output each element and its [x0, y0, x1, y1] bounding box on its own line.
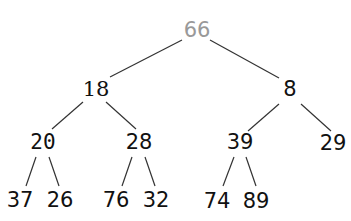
tree-edge-66-8 [210, 40, 279, 78]
tree-edge-8-29 [301, 104, 331, 131]
tree-node: 39 [227, 130, 254, 154]
tree-node: 74 [204, 189, 231, 213]
tree-node: 76 [103, 188, 130, 212]
tree-edge-39-74 [223, 157, 234, 186]
tree-node: 37 [7, 188, 34, 212]
tree-edge-39-89 [246, 157, 256, 186]
tree-node: 8 [283, 77, 296, 101]
tree-edge-66-18 [110, 40, 182, 77]
tree-edge-8-39 [248, 104, 279, 131]
tree-node-root: 66 [184, 18, 211, 42]
binary-tree-diagram: 6618820283929372676327489 [0, 0, 351, 221]
tree-edge-20-37 [26, 157, 36, 186]
tree-node: 20 [30, 130, 55, 154]
tree-edges [26, 40, 331, 186]
tree-node: 26 [47, 188, 74, 212]
tree-node: 28 [126, 130, 153, 154]
tree-edge-18-28 [106, 102, 136, 129]
tree-node: 89 [243, 189, 270, 213]
tree-edge-18-20 [52, 102, 83, 129]
tree-node: 18 [83, 77, 110, 101]
tree-node: 32 [143, 188, 170, 212]
tree-node: 29 [320, 131, 347, 155]
tree-edge-28-32 [145, 157, 155, 186]
tree-edge-20-26 [49, 157, 59, 186]
tree-edge-28-76 [122, 157, 132, 186]
